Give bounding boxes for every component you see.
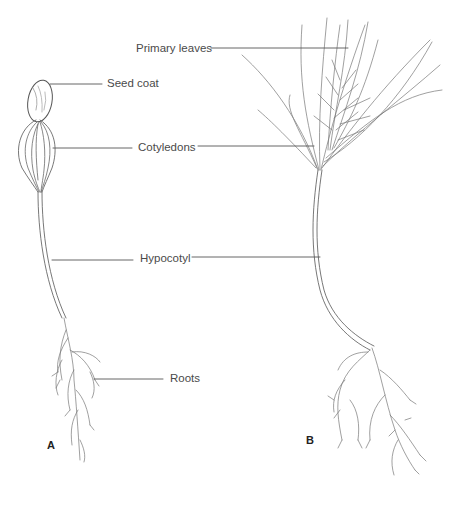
cut-off-caption [0, 498, 460, 506]
hypocotyl-a-drawing [38, 192, 66, 318]
roots-b-drawing [328, 348, 426, 475]
seedling-b [242, 18, 442, 475]
label-primary-leaves: Primary leaves [136, 42, 212, 54]
cotyledons-drawing [18, 120, 55, 192]
diagram-drawing [0, 0, 460, 506]
label-roots: Roots [170, 372, 200, 384]
label-cotyledons: Cotyledons [138, 141, 196, 153]
label-seed-coat: Seed coat [107, 77, 159, 89]
panel-label-b: B [306, 434, 314, 446]
roots-a-drawing [52, 318, 100, 462]
hypocotyl-b-drawing [313, 170, 374, 350]
primary-leaves-drawing [242, 18, 442, 170]
seed-coat-drawing [25, 78, 56, 124]
seedling-diagram: Primary leaves Seed coat Cotyledons Hypo… [0, 0, 460, 506]
panel-label-a: A [47, 439, 55, 451]
leader-lines [50, 48, 348, 379]
label-hypocotyl: Hypocotyl [140, 252, 191, 264]
seedling-a [18, 78, 100, 462]
